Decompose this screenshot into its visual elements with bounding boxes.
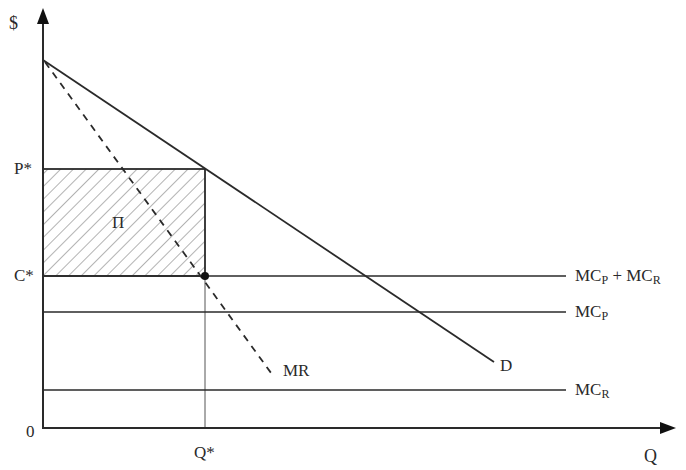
- mc-p-sub: P: [601, 309, 608, 323]
- profit-label: Π: [112, 214, 124, 231]
- p-star-label: P*: [14, 160, 32, 177]
- mc-total-main: MC: [575, 266, 601, 285]
- mc-r-main: MC: [575, 380, 601, 399]
- mc-total-plus: + MC: [608, 266, 653, 285]
- origin-label: 0: [26, 423, 35, 440]
- mr-curve-label: MR: [283, 362, 309, 379]
- q-star-label: Q*: [194, 444, 215, 461]
- y-axis-arrow-icon: [37, 8, 49, 24]
- c-star-label: C*: [14, 267, 34, 284]
- mc-p-main: MC: [575, 302, 601, 321]
- demand-curve-label: D: [500, 357, 512, 374]
- x-axis-label: Q: [644, 447, 657, 465]
- y-axis-label: $: [9, 14, 18, 32]
- x-axis-arrow-icon: [660, 422, 676, 434]
- mc-total-label: MCP + MCR: [575, 267, 661, 286]
- equilibrium-point: [201, 272, 209, 280]
- mc-total-sub-r: R: [653, 273, 661, 287]
- mc-p-label: MCP: [575, 303, 608, 322]
- mc-r-sub: R: [601, 387, 609, 401]
- mc-r-label: MCR: [575, 381, 609, 400]
